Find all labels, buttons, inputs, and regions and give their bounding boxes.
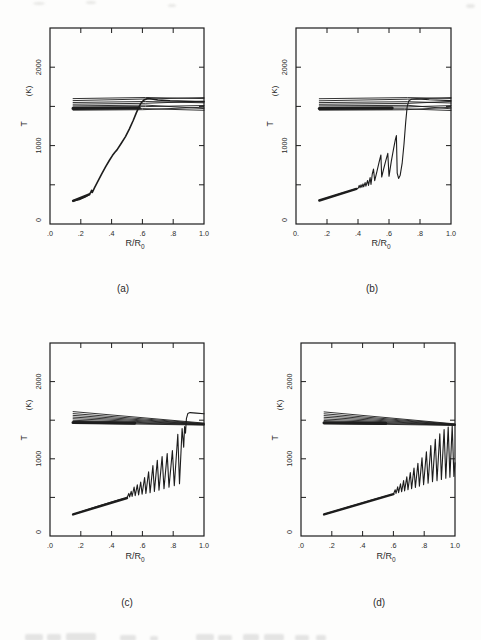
x-axis-title: R/R0 xyxy=(125,238,144,250)
midplane-temperature-curve xyxy=(73,413,204,515)
y-tick-label: 2000 xyxy=(34,374,43,390)
x-axis-title: R/R0 xyxy=(371,238,390,250)
x-tick-label: .0 xyxy=(47,229,53,238)
x-tick-label: .6 xyxy=(386,229,392,238)
scan-artifact xyxy=(86,1,96,4)
axes-frame xyxy=(50,343,204,536)
y-tick-label: 1000 xyxy=(34,451,43,467)
x-tick-label: .6 xyxy=(390,541,396,550)
panel-label-a: (a) xyxy=(117,283,129,294)
x-tick-label: .8 xyxy=(421,541,427,550)
axes-frame xyxy=(301,343,455,536)
y-axis-unit: (K) xyxy=(270,86,279,97)
scan-artifact xyxy=(168,4,176,7)
y-tick-label: 1000 xyxy=(280,138,289,154)
panel-label-c: (c) xyxy=(121,597,133,608)
x-axis-title-text: R/R xyxy=(125,238,141,248)
y-tick-label: 0 xyxy=(285,530,294,534)
x-tick-label: 1.0 xyxy=(450,541,460,550)
midplane-temperature-curve xyxy=(324,426,455,515)
x-axis-title-subscript: 0 xyxy=(141,243,145,250)
envelope-thick-band xyxy=(73,423,135,424)
x-axis-title: R/R0 xyxy=(376,551,395,563)
x-tick-label: .4 xyxy=(360,541,366,550)
y-axis-unit: (K) xyxy=(24,400,33,411)
x-tick-label: 0. xyxy=(293,229,299,238)
x-axis-title-text: R/R xyxy=(371,238,387,248)
x-axis-title-text: R/R xyxy=(125,551,141,561)
x-tick-label: .2 xyxy=(78,541,84,550)
x-axis-title: R/R0 xyxy=(125,551,144,563)
x-axis-title-subscript: 0 xyxy=(141,556,145,563)
midplane-curve-thick-base xyxy=(73,194,89,201)
scan-artifact xyxy=(466,4,475,8)
y-axis-title: T xyxy=(265,121,275,126)
y-tick-label: 0 xyxy=(34,530,43,534)
scan-artifact xyxy=(33,2,45,5)
midplane-temperature-curve xyxy=(319,99,451,201)
y-axis-title: T xyxy=(270,435,280,440)
axes-frame xyxy=(296,28,451,224)
x-tick-label: 1.0 xyxy=(199,541,209,550)
panel-a: .0.2.4.6.81.0010002000 xyxy=(34,28,209,238)
y-tick-label: 2000 xyxy=(34,59,43,75)
y-axis-unit: (K) xyxy=(275,400,284,411)
panel-d: .0.2.4.6.81.0010002000 xyxy=(285,343,460,550)
panel-label-d: (d) xyxy=(373,597,385,608)
x-tick-label: .6 xyxy=(139,541,145,550)
y-tick-label: 2000 xyxy=(285,374,294,390)
midplane-curve-thick-base xyxy=(319,189,356,201)
midplane-curve-thick-base xyxy=(324,494,393,514)
x-tick-label: .2 xyxy=(329,541,335,550)
x-tick-label: .8 xyxy=(417,229,423,238)
panel-c: .0.2.4.6.81.0010002000 xyxy=(34,343,209,550)
x-tick-label: 1.0 xyxy=(199,229,209,238)
x-tick-label: .2 xyxy=(324,229,330,238)
figure-page: .0.2.4.6.81.00100020000..2.4.6.81.001000… xyxy=(0,0,481,640)
x-tick-label: .0 xyxy=(47,541,53,550)
midplane-curve-thick-base xyxy=(73,498,127,514)
y-tick-label: 0 xyxy=(34,218,43,222)
y-axis-title: T xyxy=(19,435,29,440)
x-tick-label: .8 xyxy=(170,541,176,550)
envelope-thick-band xyxy=(324,423,386,424)
four-panel-temperature-figure: .0.2.4.6.81.00100020000..2.4.6.81.001000… xyxy=(0,0,481,640)
y-tick-label: 2000 xyxy=(280,59,289,75)
x-tick-label: .4 xyxy=(109,541,115,550)
x-tick-label: .0 xyxy=(298,541,304,550)
panel-label-b: (b) xyxy=(366,283,378,294)
x-tick-label: .4 xyxy=(109,229,115,238)
x-tick-label: .8 xyxy=(170,229,176,238)
axes-frame xyxy=(50,28,204,224)
x-axis-title-text: R/R xyxy=(376,551,392,561)
y-axis-title: T xyxy=(19,121,29,126)
x-tick-label: .4 xyxy=(355,229,361,238)
midplane-temperature-curve xyxy=(73,98,204,200)
y-tick-label: 1000 xyxy=(34,138,43,154)
x-axis-title-subscript: 0 xyxy=(387,243,391,250)
y-tick-label: 0 xyxy=(280,218,289,222)
x-axis-title-subscript: 0 xyxy=(392,556,396,563)
x-tick-label: 1.0 xyxy=(446,229,456,238)
x-tick-label: .2 xyxy=(78,229,84,238)
y-tick-label: 1000 xyxy=(285,451,294,467)
panel-b: 0..2.4.6.81.0010002000 xyxy=(280,28,456,238)
x-tick-label: .6 xyxy=(139,229,145,238)
y-axis-unit: (K) xyxy=(24,86,33,97)
